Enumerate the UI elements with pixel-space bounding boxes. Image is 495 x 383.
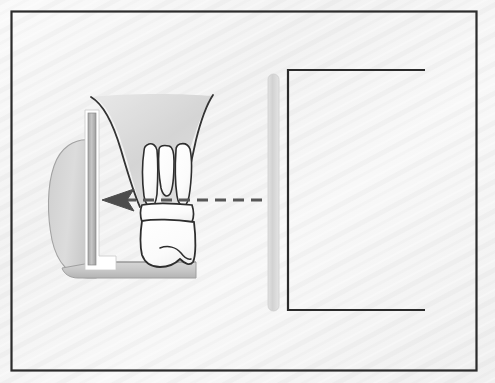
pid-aperture-bar: [268, 74, 279, 311]
figure-root: Paralleling technique radiographic proje…: [0, 0, 495, 383]
bite-block: [62, 262, 196, 278]
molar-tooth: [141, 144, 196, 267]
film-plate-body: [88, 113, 96, 265]
tooth-root-mesial: [143, 144, 158, 207]
tooth-crown: [141, 220, 196, 267]
diagram-canvas: Paralleling technique radiographic proje…: [0, 0, 495, 383]
tooth-root-distal: [175, 144, 191, 207]
tooth-root-middle: [159, 145, 174, 196]
